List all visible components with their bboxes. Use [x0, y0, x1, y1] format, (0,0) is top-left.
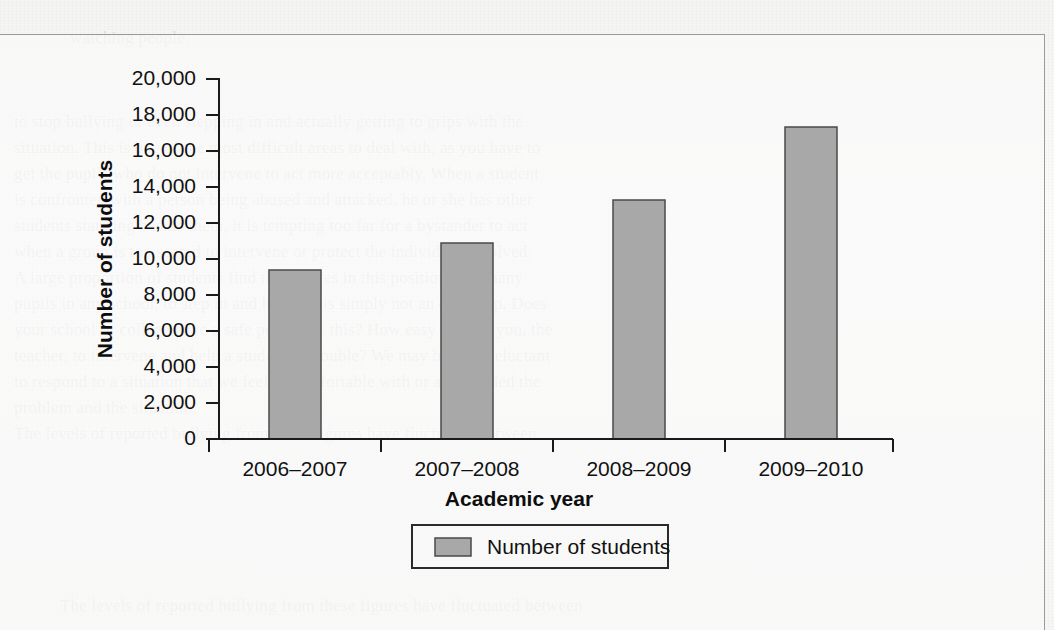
y-tick-label: 12,000 [132, 210, 196, 233]
y-tick-label: 0 [184, 426, 196, 449]
bar-2009-2010 [785, 127, 837, 439]
y-tick-label: 4,000 [143, 354, 196, 377]
x-axis-title: Academic year [445, 487, 593, 510]
bar-chart: Number of students 20,000 18,000 16,000 … [0, 0, 1054, 630]
bar-2008-2009 [613, 200, 665, 439]
y-tick-label: 18,000 [132, 102, 196, 125]
bar-series [269, 127, 837, 439]
bar-2006-2007 [269, 270, 321, 439]
x-tick-label: 2006–2007 [242, 457, 347, 480]
y-tick-label: 16,000 [132, 138, 196, 161]
scanned-page: watching people. to stop bullying or eve… [0, 0, 1054, 630]
y-tick-label: 10,000 [132, 246, 196, 269]
y-tick-label: 2,000 [143, 390, 196, 413]
x-axis-tick-labels: 2006–2007 2007–2008 2008–2009 2009–2010 [242, 457, 863, 480]
bar-2007-2008 [441, 243, 493, 439]
chart-legend: Number of students [412, 525, 670, 568]
y-tick-label: 14,000 [132, 174, 196, 197]
y-axis-title: Number of students [93, 160, 116, 358]
legend-entry-label: Number of students [487, 535, 670, 558]
x-tick-label: 2008–2009 [586, 457, 691, 480]
y-axis-tick-labels: 20,000 18,000 16,000 14,000 12,000 10,00… [132, 66, 196, 449]
legend-swatch-icon [435, 538, 471, 556]
y-axis-ticks [206, 79, 219, 439]
y-tick-label: 20,000 [132, 66, 196, 89]
x-tick-label: 2009–2010 [758, 457, 863, 480]
y-tick-label: 6,000 [143, 318, 196, 341]
x-tick-label: 2007–2008 [414, 457, 519, 480]
x-axis-ticks [209, 439, 893, 452]
y-tick-label: 8,000 [143, 282, 196, 305]
